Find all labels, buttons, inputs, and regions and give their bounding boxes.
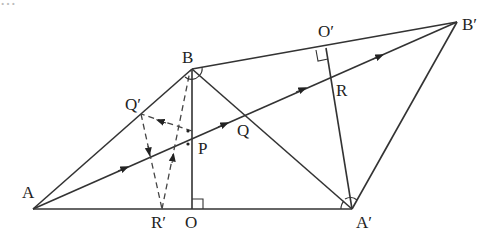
label-R-prime: R′ — [151, 213, 166, 232]
label-P: P — [198, 139, 207, 158]
arrow-R-B-prime — [373, 56, 380, 59]
right-angle-O — [192, 199, 203, 209]
dashed-Q-prime-R-prime — [141, 114, 162, 209]
geometry-diagram: A B O P Q R A′ B′ O′ Q′ R′ — [0, 0, 497, 245]
label-Q: Q — [237, 121, 249, 140]
label-Q-prime: Q′ — [125, 95, 141, 114]
segment-A-B — [33, 69, 192, 209]
segment-A-prime-O-prime — [326, 48, 352, 209]
label-A-prime: A′ — [356, 213, 372, 232]
label-B: B — [182, 48, 193, 67]
dashed-P-Q-prime — [141, 114, 192, 131]
segment-A-prime-B-prime — [352, 22, 457, 209]
ray-A-B-prime — [33, 22, 457, 209]
segment-B-A-prime — [192, 69, 352, 209]
label-R: R — [336, 81, 348, 100]
angle-arc-A-prime-left — [341, 201, 344, 209]
angle-dot-lower — [186, 142, 189, 145]
label-A: A — [22, 183, 35, 202]
label-O: O — [185, 213, 197, 232]
label-O-prime: O′ — [318, 22, 334, 41]
label-B-prime: B′ — [462, 15, 477, 34]
angle-dot-upper — [186, 129, 189, 132]
